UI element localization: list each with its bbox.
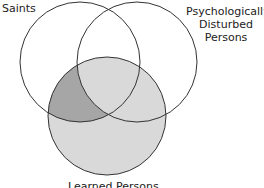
venn-diagram: Saints Psychologically Disturbed Persons… <box>0 0 264 188</box>
psych-label: Psychologically Disturbed Persons <box>186 5 264 44</box>
saints-learned-region <box>20 2 140 122</box>
psych-label-line-2: Disturbed <box>186 18 264 31</box>
saints-label: Saints <box>2 2 36 15</box>
learned-label: Learned Persons <box>68 180 159 188</box>
psych-label-line-3: Persons <box>186 31 264 44</box>
psych-label-line-1: Psychologically <box>186 5 264 18</box>
